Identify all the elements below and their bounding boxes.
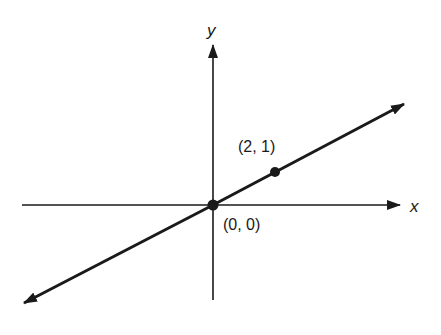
point-origin: [208, 200, 219, 211]
x-axis-label: x: [409, 197, 419, 216]
y-axis-label: y: [206, 21, 217, 40]
coordinate-plane: y x (2, 1) (0, 0): [0, 0, 441, 335]
point-2-1: [270, 167, 280, 177]
origin-label: (0, 0): [223, 216, 260, 233]
point-2-1-label: (2, 1): [238, 138, 275, 155]
graph-line-negative: [24, 205, 213, 303]
